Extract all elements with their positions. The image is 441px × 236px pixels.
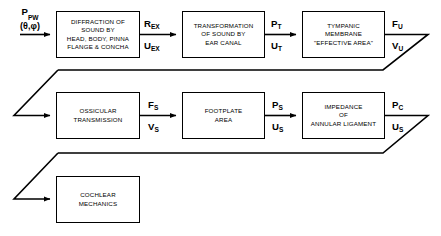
block-diffraction-label: DIFFRACTION OF SOUND BY HEAD, BODY, PINN… <box>65 18 131 52</box>
wire-wrap-into-row3 <box>14 153 58 199</box>
signal-p-s-subscript: S <box>278 104 282 111</box>
block-transformation[interactable]: TRANSFORMATION OF SOUND BY EAR CANAL <box>182 11 265 58</box>
block-tympanic-membrane[interactable]: TYMPANIC MEMBRANE "EFFECTIVE AREA" <box>302 11 385 58</box>
block-cochlear-mechanics[interactable]: COCHLEAR MECHANICS <box>56 176 140 223</box>
signal-v-s-subscript: S <box>154 126 158 133</box>
signal-p-t: PT <box>271 19 281 29</box>
block-tympanic-membrane-label: TYMPANIC MEMBRANE "EFFECTIVE AREA" <box>312 22 375 47</box>
input-symbol: PPW <box>13 6 47 21</box>
signal-u-t: UT <box>271 41 282 51</box>
signal-p-t-subscript: T <box>277 23 281 30</box>
signal-u-t-subscript: T <box>278 45 282 52</box>
block-diffraction[interactable]: DIFFRACTION OF SOUND BY HEAD, BODY, PINN… <box>56 11 140 58</box>
signal-f-s-subscript: S <box>154 104 158 111</box>
signal-v-u: VU <box>392 41 403 51</box>
block-cochlear-mechanics-label: COCHLEAR MECHANICS <box>77 191 119 208</box>
block-ossicular-transmission-label: OSSICULAR TRANSMISSION <box>72 107 125 124</box>
input-symbol-subscript: PW <box>28 14 39 21</box>
input-stimulus-label: PPW (θ,φ) <box>13 6 47 32</box>
block-footplate-area-label: FOOTPLATE AREA <box>203 107 245 124</box>
signal-f-u-subscript: U <box>398 23 403 30</box>
signal-u-ex: UEX <box>144 41 160 51</box>
block-footplate-area[interactable]: FOOTPLATE AREA <box>182 92 265 139</box>
input-angles: (θ,φ) <box>13 21 47 32</box>
signal-r-ex: REX <box>144 19 160 29</box>
signal-u-ex-subscript: EX <box>151 45 160 52</box>
signal-r-ex-subscript: EX <box>151 23 160 30</box>
block-annular-ligament[interactable]: IMPEDANCE OF ANNULAR LIGAMENT <box>302 92 385 139</box>
signal-u-s-row2: US <box>272 122 283 132</box>
signal-f-u: FU <box>392 19 403 29</box>
wire-wrap-into-row2 <box>14 70 58 116</box>
signal-p-c-subscript: C <box>398 104 403 111</box>
signal-p-s: PS <box>272 100 283 110</box>
signal-p-c: PC <box>392 100 403 110</box>
block-diagram-canvas: PPW (θ,φ) DIFFRACTION OF SOUND BY HEAD, … <box>0 0 441 236</box>
signal-u-s-row2-subscript: S <box>279 126 283 133</box>
signal-f-s: FS <box>148 100 158 110</box>
block-ossicular-transmission[interactable]: OSSICULAR TRANSMISSION <box>56 92 140 139</box>
signal-v-s: VS <box>148 122 159 132</box>
signal-u-s-row3-subscript: S <box>399 126 403 133</box>
block-annular-ligament-label: IMPEDANCE OF ANNULAR LIGAMENT <box>309 103 378 128</box>
signal-u-s-row3: US <box>392 122 403 132</box>
signal-v-u-subscript: U <box>398 45 403 52</box>
block-transformation-label: TRANSFORMATION OF SOUND BY EAR CANAL <box>192 22 256 47</box>
